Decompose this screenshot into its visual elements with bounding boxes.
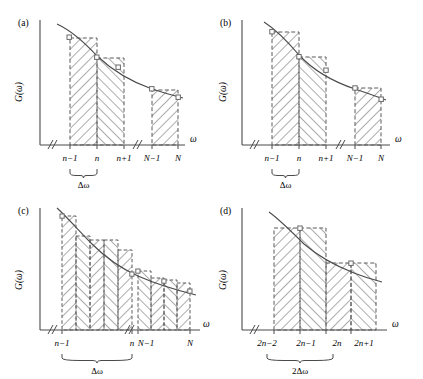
two-delta-omega-brace xyxy=(267,354,333,363)
marker-2n-1 xyxy=(298,226,302,230)
panel-a: (a) G(ω) ω n−1 n n+1 N−1 N Δω xyxy=(0,0,211,189)
tick-label-2: 2n xyxy=(333,338,343,348)
tick-label-1: n xyxy=(297,153,302,163)
panel-label: (a) xyxy=(18,18,29,29)
figure-container: (a) G(ω) ω n−1 n n+1 N−1 N Δω xyxy=(0,0,423,379)
bar-c-right-0 xyxy=(138,271,151,330)
tick-label-3: 2n+1 xyxy=(354,338,374,348)
marker-N xyxy=(176,95,180,99)
bar-n xyxy=(97,58,124,145)
bar-c-left-1 xyxy=(76,236,90,330)
tick-label-0: 2n−2 xyxy=(257,338,277,348)
panel-label: (b) xyxy=(220,18,231,29)
x-axis-label: ω xyxy=(203,319,210,329)
bar-c-left-3 xyxy=(104,240,118,330)
y-axis-label: G(ω) xyxy=(218,270,229,290)
marker-n-1 xyxy=(270,30,274,34)
tick-label-3: N xyxy=(186,338,194,348)
delta-omega-brace xyxy=(272,169,299,178)
tick-label-2: N−1 xyxy=(137,338,155,348)
tick-label-2: n+1 xyxy=(318,153,333,163)
marker-c-right-0 xyxy=(136,269,140,273)
bar-c-left-4 xyxy=(118,250,132,330)
panel-d-plot: (d) G(ω) ω 2n−2 2n−1 2n 2n+1 2Δω xyxy=(212,190,423,379)
panel-b: (b) G(ω) ω n−1 n n+1 N−1 N Δω xyxy=(212,0,423,189)
tick-label-3: N−1 xyxy=(346,153,364,163)
panel-c: (c) G(ω) ω n−1 n N−1 N Δω xyxy=(0,190,211,379)
y-axis-label: G(ω) xyxy=(218,82,229,102)
x-axis-label: ω xyxy=(190,134,197,144)
bar-2n-2 xyxy=(274,228,300,330)
marker-2n-plus-1 xyxy=(349,261,353,265)
marker-c-right-4 xyxy=(188,289,192,293)
delta-omega-brace xyxy=(62,354,132,363)
two-delta-omega-label: 2Δω xyxy=(292,366,308,376)
panel-b-plot: (b) G(ω) ω n−1 n n+1 N−1 N Δω xyxy=(212,0,423,189)
tick-label-0: n−1 xyxy=(62,153,77,163)
x-axis-label: ω xyxy=(392,319,399,329)
bar-n-1 xyxy=(70,38,97,145)
tick-label-1: 2n−1 xyxy=(296,338,316,348)
tick-label-0: n−1 xyxy=(264,153,279,163)
bar-c-left-0 xyxy=(62,216,76,330)
marker-n xyxy=(95,55,99,59)
tick-label-2: n+1 xyxy=(116,153,131,163)
panel-label: (c) xyxy=(18,206,29,217)
panel-c-plot: (c) G(ω) ω n−1 n N−1 N Δω xyxy=(0,190,211,379)
marker-n-plus-1 xyxy=(116,65,120,69)
panel-label: (d) xyxy=(220,206,231,217)
marker-n-plus-1 xyxy=(324,68,328,72)
x-tick-marks xyxy=(274,330,351,334)
tick-label-0: n−1 xyxy=(54,338,69,348)
marker-N-1 xyxy=(150,87,154,91)
delta-omega-label: Δω xyxy=(91,366,103,376)
tick-label-4: N xyxy=(174,153,182,163)
bar-N-1 xyxy=(152,90,178,145)
marker-N xyxy=(379,97,383,101)
y-axis-label: G(ω) xyxy=(14,270,25,290)
panel-a-plot: (a) G(ω) ω n−1 n n+1 N−1 N Δω xyxy=(0,0,211,189)
marker-c-right-2 xyxy=(162,279,166,283)
bar-n-1 xyxy=(272,32,299,145)
marker-c-left-end xyxy=(130,272,134,276)
panel-d: (d) G(ω) ω 2n−2 2n−1 2n 2n+1 2Δω xyxy=(212,190,423,379)
marker-n xyxy=(297,55,301,59)
marker-n-1 xyxy=(67,35,71,39)
delta-omega-label: Δω xyxy=(280,180,292,189)
y-axis-label: G(ω) xyxy=(14,82,25,102)
delta-omega-label: Δω xyxy=(78,180,90,189)
bar-2n xyxy=(326,263,351,330)
tick-label-1: n xyxy=(130,338,135,348)
bar-n xyxy=(299,57,326,145)
x-tick-marks xyxy=(70,145,178,149)
marker-c-left-0 xyxy=(60,214,64,218)
tick-label-1: n xyxy=(95,153,100,163)
delta-omega-brace xyxy=(70,169,97,178)
tick-label-3: N−1 xyxy=(143,153,161,163)
tick-label-4: N xyxy=(377,153,385,163)
marker-N-1 xyxy=(353,86,357,90)
x-axis-label: ω xyxy=(395,134,402,144)
x-tick-marks xyxy=(272,145,381,149)
